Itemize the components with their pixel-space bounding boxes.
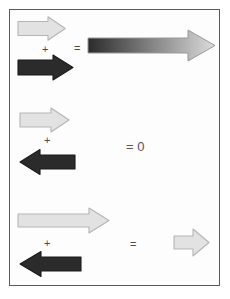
row2-result-zero-label: = 0 bbox=[126, 140, 144, 153]
row1-equals-operator: = bbox=[74, 43, 80, 54]
row1-result-gradient-arrow bbox=[88, 29, 216, 62]
row1-light-arrow-right bbox=[18, 16, 66, 41]
row2-dark-arrow-left bbox=[19, 148, 75, 176]
row3-result-light-arrow-right bbox=[174, 228, 210, 257]
row1-dark-arrow-right bbox=[18, 54, 74, 81]
row2-light-arrow-right bbox=[20, 107, 70, 133]
row3-plus-operator: + bbox=[44, 238, 50, 249]
row3-equals-operator: = bbox=[130, 239, 136, 250]
arrow-addition-figure: + = + = 0 bbox=[0, 0, 230, 299]
row3-dark-arrow-left bbox=[19, 250, 81, 278]
row3-light-arrow-right bbox=[18, 207, 110, 234]
row2-plus-operator: + bbox=[44, 135, 50, 146]
